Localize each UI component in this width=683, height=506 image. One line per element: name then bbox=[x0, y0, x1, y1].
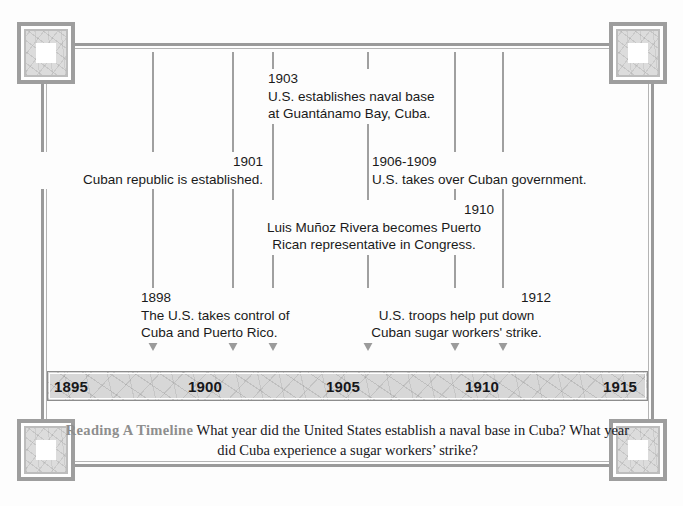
event-year-1901: 1901 bbox=[43, 153, 263, 171]
event-text-1903-line1: U.S. establishes naval base bbox=[268, 88, 435, 106]
event-year-1912: 1912 bbox=[362, 289, 551, 307]
caption-body-text: What year did the United States establis… bbox=[197, 422, 630, 458]
axis-tick-label-1900: 1900 bbox=[188, 378, 222, 395]
event-text-1910-line1: Luis Muñoz Rivera becomes Puerto bbox=[254, 219, 494, 237]
corner-ornament-texture bbox=[24, 29, 68, 77]
event-text-1898-line2: Cuba and Puerto Rico. bbox=[141, 324, 290, 342]
corner-ornament-center-square bbox=[36, 440, 56, 460]
figure-caption: Reading A Timeline What year did the Uni… bbox=[55, 420, 640, 460]
axis-tick-label-1910: 1910 bbox=[465, 378, 499, 395]
event-label-1898: 1898 The U.S. takes control of Cuba and … bbox=[138, 288, 293, 343]
timeline-figure: 1895 1900 1905 1910 1915 1903 U.S. estab… bbox=[0, 0, 683, 506]
event-text-1898-line1: The U.S. takes control of bbox=[141, 307, 290, 325]
event-arrow-1906-1909 bbox=[363, 342, 373, 351]
event-year-1910: 1910 bbox=[254, 201, 494, 219]
event-text-1912-line1: U.S. troops help put down bbox=[362, 307, 551, 325]
event-arrow-1903 bbox=[268, 342, 278, 351]
event-label-1901: 1901 Cuban republic is established. bbox=[41, 152, 265, 189]
axis-tick-label-1905: 1905 bbox=[326, 378, 360, 395]
event-label-1903: 1903 U.S. establishes naval base at Guan… bbox=[265, 69, 438, 124]
event-text-1901-line1: Cuban republic is established. bbox=[43, 171, 263, 189]
corner-ornament-texture bbox=[616, 29, 660, 77]
event-year-1906-1909: 1906-1909 bbox=[372, 153, 587, 171]
event-label-1906-1909: 1906-1909 U.S. takes over Cuban governme… bbox=[369, 152, 590, 189]
corner-ornament-center-square bbox=[628, 43, 648, 63]
caption-lead-label: Reading A Timeline bbox=[66, 422, 193, 438]
event-text-1906-1909-line1: U.S. takes over Cuban government. bbox=[372, 171, 587, 189]
event-year-1898: 1898 bbox=[141, 289, 290, 307]
event-text-1910-line2: Rican representative in Congress. bbox=[254, 236, 494, 254]
event-arrow-1898 bbox=[148, 342, 158, 351]
event-arrow-1901 bbox=[228, 342, 238, 351]
event-label-1910: 1910 Luis Muñoz Rivera becomes Puerto Ri… bbox=[252, 200, 496, 255]
axis-tick-label-1915: 1915 bbox=[603, 378, 637, 395]
axis-tick-label-1895: 1895 bbox=[54, 378, 88, 395]
event-text-1912-line2: Cuban sugar workers' strike. bbox=[362, 324, 551, 342]
corner-ornament-top-right bbox=[609, 22, 667, 84]
corner-ornament-top-left bbox=[17, 22, 75, 84]
event-text-1903-line2: at Guantánamo Bay, Cuba. bbox=[268, 105, 435, 123]
event-label-1912: 1912 U.S. troops help put down Cuban sug… bbox=[360, 288, 553, 343]
corner-ornament-center-square bbox=[36, 43, 56, 63]
event-year-1903: 1903 bbox=[268, 70, 435, 88]
event-arrow-1910 bbox=[450, 342, 460, 351]
event-arrow-1912 bbox=[498, 342, 508, 351]
